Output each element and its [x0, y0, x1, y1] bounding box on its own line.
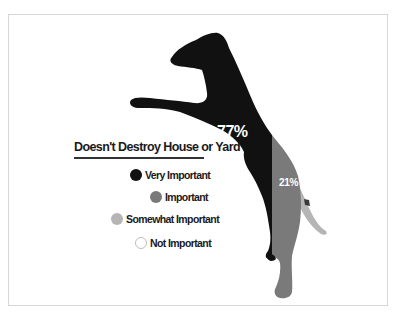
legend-item-not-important: Not Important	[135, 237, 211, 249]
legend-label: Not Important	[150, 237, 211, 249]
legend-dot-icon	[150, 191, 162, 203]
legend-label: Somewhat Important	[126, 213, 219, 225]
chart-title: Doesn't Destroy House or Yard	[74, 140, 240, 154]
legend-item-important: Important	[150, 191, 208, 203]
very-important-percent-label: 77%	[217, 123, 248, 141]
legend-dot-icon	[111, 213, 123, 225]
title-underline	[74, 157, 204, 159]
legend-label: Important	[165, 191, 208, 203]
legend-dot-icon	[130, 169, 142, 181]
legend-label: Very Important	[145, 169, 210, 181]
legend-dot-icon	[135, 237, 147, 249]
legend-item-very-important: Very Important	[130, 169, 210, 181]
legend-item-somewhat-important: Somewhat Important	[111, 213, 219, 225]
important-percent-label: 21%	[279, 177, 298, 188]
